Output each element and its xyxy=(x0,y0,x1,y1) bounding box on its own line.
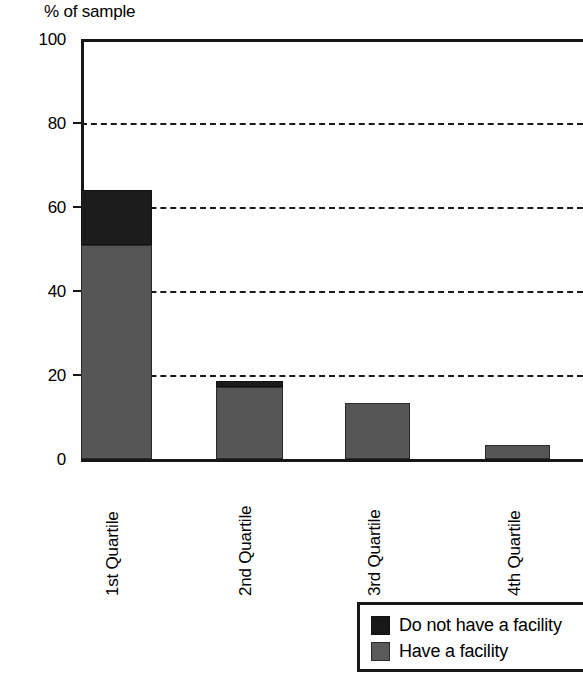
legend-swatch-icon-have-facility xyxy=(371,642,390,661)
y-axis-tick-mark-40 xyxy=(73,290,81,292)
bar-4th-quartile[interactable] xyxy=(485,445,550,459)
legend-label-have-facility: Have a facility xyxy=(399,641,508,661)
bar-segment-have-facility[interactable] xyxy=(216,387,283,459)
legend: Do not have a facility Have a facility xyxy=(357,602,583,672)
y-axis-tick-mark-20 xyxy=(73,374,81,376)
x-axis-label-2nd-quartile: 2nd Quartile xyxy=(237,506,255,596)
bar-segment-have-facility[interactable] xyxy=(81,245,152,459)
bar-3rd-quartile[interactable] xyxy=(345,403,410,459)
legend-label-do-not-have-facility: Do not have a facility xyxy=(399,615,562,635)
y-axis-tick-mark-80 xyxy=(73,122,81,124)
y-axis-tick-label-20: 20 xyxy=(4,367,66,384)
gridline-20 xyxy=(81,375,583,377)
x-axis-label-3rd-quartile: 3rd Quartile xyxy=(366,510,384,596)
bar-2nd-quartile[interactable] xyxy=(216,381,283,459)
y-axis-tick-mark-60 xyxy=(73,206,81,208)
gridline-60 xyxy=(81,207,583,209)
axis-line-top xyxy=(81,39,583,42)
bar-chart: % of sample 100 80 60 40 20 0 xyxy=(0,0,583,679)
chart-title: % of sample xyxy=(44,2,135,22)
y-axis-tick-label-40: 40 xyxy=(4,283,66,300)
x-axis-label-1st-quartile: 1st Quartile xyxy=(104,511,122,596)
bar-segment-have-facility[interactable] xyxy=(345,403,410,459)
legend-swatch-icon-do-not-have-facility xyxy=(371,616,390,635)
plot-area xyxy=(81,39,583,459)
bar-segment-have-facility[interactable] xyxy=(485,445,550,459)
legend-item-do-not-have-facility[interactable]: Do not have a facility xyxy=(371,615,562,635)
bar-segment-do-not-have-facility[interactable] xyxy=(81,190,152,245)
y-axis-tick-label-80: 80 xyxy=(4,115,66,132)
y-axis-tick-label-0: 0 xyxy=(4,451,66,468)
gridline-80 xyxy=(81,123,583,125)
y-axis-tick-label-60: 60 xyxy=(4,199,66,216)
bar-1st-quartile[interactable] xyxy=(81,190,152,459)
x-axis-label-4th-quartile: 4th Quartile xyxy=(506,511,524,596)
y-axis-tick-label-100: 100 xyxy=(4,31,66,48)
x-axis-line xyxy=(81,459,583,462)
gridline-40 xyxy=(81,291,583,293)
legend-item-have-facility[interactable]: Have a facility xyxy=(371,641,508,661)
